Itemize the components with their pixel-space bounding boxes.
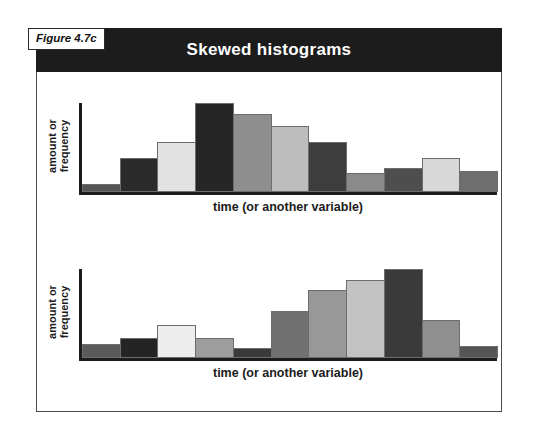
bar: [308, 290, 347, 358]
y-axis-label-top: amount or frequency: [42, 100, 76, 192]
bar: [384, 168, 423, 192]
bar: [346, 280, 385, 358]
bar-series-top: [82, 103, 497, 192]
bar: [82, 184, 121, 192]
y-axis-label-bottom: amount or frequency: [42, 266, 76, 358]
bar: [271, 126, 310, 192]
bar: [422, 158, 461, 192]
bar: [233, 114, 272, 192]
bar: [195, 103, 234, 192]
bar: [459, 346, 498, 358]
bar: [120, 158, 159, 192]
chart-bottom-histogram: amount or frequency time (or another var…: [36, 262, 502, 392]
bar: [233, 348, 272, 358]
bar: [308, 142, 347, 192]
bar: [271, 311, 310, 358]
plot-area-bottom: [79, 269, 497, 361]
x-axis-label-top: time (or another variable): [79, 200, 497, 214]
bar-series-bottom: [82, 269, 497, 358]
figure-number-tag: Figure 4.7c: [28, 28, 105, 50]
bar: [82, 344, 121, 358]
bar: [157, 325, 196, 358]
bar: [459, 171, 498, 192]
x-axis-line-bottom: [79, 358, 497, 361]
bar: [157, 142, 196, 192]
plot-area-top: [79, 103, 497, 195]
chart-top-histogram: amount or frequency time (or another var…: [36, 96, 502, 226]
bar: [422, 320, 461, 358]
bar: [195, 338, 234, 358]
bar: [384, 269, 423, 358]
x-axis-line-top: [79, 192, 497, 195]
figure-title: Skewed histograms: [187, 40, 352, 60]
x-axis-label-bottom: time (or another variable): [79, 366, 497, 380]
figure-title-bar: Skewed histograms: [36, 28, 502, 72]
bar: [120, 338, 159, 358]
bar: [346, 173, 385, 192]
